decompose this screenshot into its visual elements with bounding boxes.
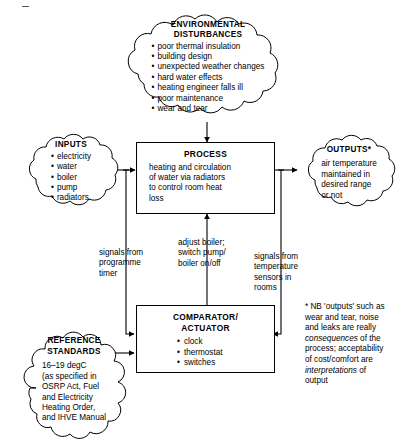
ref-desc-line: 16–19 degC	[42, 361, 106, 371]
ref-desc-line: OSRP Act, Fuel	[42, 382, 106, 392]
label-programme-timer: signals from programme timer	[99, 248, 169, 279]
footnote-emphasis: consequences	[305, 334, 358, 343]
list-item: radiators	[51, 193, 91, 203]
footnote-line: wear and tear, noise	[305, 313, 409, 324]
cloud-title-line1: ENVIRONMENTAL	[171, 20, 246, 31]
list-item: building design	[152, 52, 265, 62]
label-line: programme	[99, 258, 169, 268]
ref-desc-line: and Electricity	[42, 393, 106, 403]
list-item: heating engineer falls ill	[152, 83, 265, 93]
ref-desc-line: and IHVE Manual	[42, 413, 106, 423]
process-box: PROCESS heating and circulation of water…	[136, 142, 275, 214]
list-item: unexpected weather changes	[152, 62, 265, 72]
disturbance-list: poor thermal insulation building design …	[152, 42, 265, 115]
label-adjust-boiler: adjust boiler; switch pump/ boiler on/of…	[178, 238, 256, 269]
diagram-canvas: ENVIRONMENTAL DISTURBANCES poor thermal …	[0, 0, 410, 447]
footnote-line: process; acceptability	[305, 344, 409, 355]
process-desc-line: to control room heat	[149, 183, 231, 193]
cloud-outputs: OUTPUTS* air temperature maintained in d…	[294, 128, 402, 220]
cloud-title: INPUTS	[55, 140, 87, 151]
cloud-inputs: INPUTS electricity water boiler pump rad…	[14, 127, 126, 219]
list-item: wear and tear	[152, 104, 265, 114]
label-line: adjust boiler;	[178, 238, 256, 248]
label-line: sensors in	[254, 273, 326, 283]
label-line: signals from	[99, 248, 169, 258]
process-title: PROCESS	[184, 149, 227, 160]
comparator-list: clock thermostat switches	[177, 337, 223, 369]
footnote-line: of cost/comfort are	[305, 355, 409, 366]
label-line: boiler on/off	[178, 259, 256, 269]
cloud-reference-standards: REFERENCE STANDARDS 16–19 degC (as speci…	[14, 322, 130, 440]
footnote-text: of the	[358, 334, 381, 343]
outputs-desc-line: air temperature	[321, 159, 377, 169]
list-item: water	[51, 162, 91, 172]
comparator-actuator-box: COMPARATOR/ ACTUATOR clock thermostat sw…	[136, 305, 275, 373]
outputs-footnote: * NB 'outputs' such as wear and tear, no…	[305, 302, 409, 387]
footnote-line: * NB 'outputs' such as	[305, 302, 409, 313]
inputs-list: electricity water boiler pump radiators	[51, 152, 91, 204]
list-item: electricity	[51, 152, 91, 162]
label-temperature-sensors: signals from temperature sensors in room…	[254, 252, 326, 294]
process-desc-line: loss	[149, 194, 231, 204]
list-item: poor maintenance	[152, 94, 265, 104]
outputs-desc-line: or not	[321, 191, 377, 201]
cloud-title: REFERENCE STANDARDS	[47, 336, 101, 357]
cloud-title: OUTPUTS*	[327, 145, 372, 156]
footnote-emphasis: interpretations	[305, 366, 357, 375]
label-line: switch pump/	[178, 248, 256, 258]
outputs-desc-line: desired range	[321, 180, 377, 190]
label-line: temperature	[254, 262, 326, 272]
cloud-title-line1: REFERENCE	[47, 336, 101, 347]
comparator-title-line2: ACTUATOR	[173, 323, 238, 334]
label-line: signals from	[254, 252, 326, 262]
process-desc-line: of water via radiators	[149, 173, 231, 183]
cloud-environmental-disturbances: ENVIRONMENTAL DISTURBANCES poor thermal …	[108, 12, 308, 124]
list-item: clock	[177, 337, 223, 348]
label-line: timer	[99, 269, 169, 279]
process-desc-line: heating and circulation	[149, 163, 231, 173]
footnote-line: interpretations of	[305, 366, 409, 377]
outputs-description: air temperature maintained in desired ra…	[321, 159, 377, 201]
comparator-title: COMPARATOR/ ACTUATOR	[173, 312, 238, 333]
ref-desc-line: Heating Order,	[42, 403, 106, 413]
cloud-title: ENVIRONMENTAL DISTURBANCES	[171, 20, 246, 41]
outputs-desc-line: maintained in	[321, 170, 377, 180]
list-item: thermostat	[177, 348, 223, 359]
label-line: rooms	[254, 283, 326, 293]
list-item: boiler	[51, 173, 91, 183]
cloud-title-line2: STANDARDS	[47, 347, 101, 358]
footnote-text: of	[357, 366, 366, 375]
list-item: hard water effects	[152, 73, 265, 83]
list-item: switches	[177, 358, 223, 369]
footnote-line: consequences of the	[305, 334, 409, 345]
process-description: heating and circulation of water via rad…	[149, 163, 231, 205]
list-item: poor thermal insulation	[152, 42, 265, 52]
comparator-title-line1: COMPARATOR/	[173, 312, 238, 323]
cloud-title-line2: DISTURBANCES	[171, 30, 246, 41]
reference-standards-description: 16–19 degC (as specified in OSRP Act, Fu…	[42, 361, 106, 423]
footnote-line: and leaks are really	[305, 323, 409, 334]
list-item: pump	[51, 183, 91, 193]
footnote-line: output	[305, 376, 409, 387]
ref-desc-line: (as specified in	[42, 372, 106, 382]
